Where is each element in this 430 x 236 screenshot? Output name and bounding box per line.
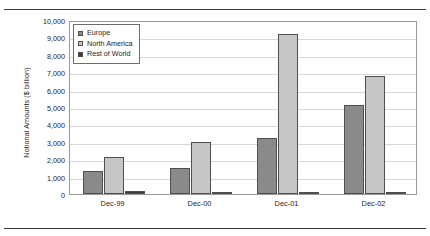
bar	[104, 157, 124, 194]
bar-group	[170, 22, 232, 194]
legend-item-rest-of-world: Rest of World	[78, 49, 133, 60]
legend-swatch-icon-rest-of-world	[78, 52, 83, 57]
x-tick-label: Dec-02	[362, 199, 386, 208]
bar	[191, 142, 211, 194]
legend-item-north-america: North America	[78, 39, 133, 50]
top-rule	[4, 9, 426, 10]
bar	[365, 76, 385, 194]
y-tick-label: 6,000	[47, 86, 65, 95]
y-tick-label: 5,000	[47, 104, 65, 113]
y-axis-tick-labels: 01,0002,0003,0004,0005,0006,0007,0008,00…	[0, 21, 65, 195]
y-tick-label: 3,000	[47, 138, 65, 147]
legend-swatch-icon-north-america	[78, 41, 83, 46]
bar	[386, 192, 406, 194]
bar	[257, 138, 277, 194]
y-tick-label: 10,000	[43, 17, 65, 26]
chart-legend: Europe North America Rest of World	[73, 24, 140, 64]
legend-swatch-icon-europe	[78, 31, 83, 36]
y-tick-label: 4,000	[47, 121, 65, 130]
bar	[344, 105, 364, 194]
y-tick-label: 9,000	[47, 34, 65, 43]
bar	[299, 192, 319, 194]
y-tick-label: 2,000	[47, 156, 65, 165]
bar	[125, 191, 145, 194]
legend-label-north-america: North America	[87, 39, 133, 50]
bar	[170, 168, 190, 194]
legend-label-europe: Europe	[87, 28, 110, 39]
bar-group	[344, 22, 406, 194]
x-tick-label: Dec-01	[275, 199, 299, 208]
bar-group	[257, 22, 319, 194]
legend-item-europe: Europe	[78, 28, 133, 39]
x-tick-label: Dec-00	[188, 199, 212, 208]
y-tick-label: 7,000	[47, 69, 65, 78]
legend-label-rest-of-world: Rest of World	[87, 49, 130, 60]
x-tick-label: Dec-99	[101, 199, 125, 208]
bottom-rule	[4, 228, 426, 229]
x-axis-tick-labels: Dec-99Dec-00Dec-01Dec-02	[69, 199, 417, 213]
y-tick-label: 0	[61, 191, 65, 200]
chart-figure: Notional Amounts ($ billion) 01,0002,000…	[0, 0, 430, 236]
bar	[83, 171, 103, 194]
y-tick-label: 1,000	[47, 173, 65, 182]
bar	[212, 192, 232, 194]
bar	[278, 34, 298, 194]
y-tick-label: 8,000	[47, 51, 65, 60]
